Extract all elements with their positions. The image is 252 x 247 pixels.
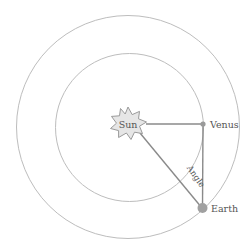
earth-dot xyxy=(198,203,208,213)
angle-label: Angle xyxy=(184,162,207,189)
venus-earth-line xyxy=(203,124,204,208)
venus-dot xyxy=(200,121,205,126)
venus-label: Venus xyxy=(209,119,239,130)
earth-label: Earth xyxy=(211,203,238,214)
sun-label: Sun xyxy=(119,119,138,130)
orbit-diagram: Sun Venus Earth Angle xyxy=(0,0,252,247)
